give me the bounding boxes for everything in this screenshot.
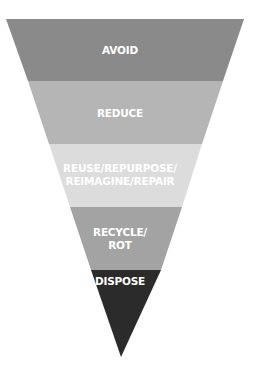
- label-reuse-line1: REUSE/REPURPOSE/: [0, 162, 240, 175]
- label-reduce: REDUCE: [0, 107, 240, 120]
- label-avoid: AVOID: [0, 44, 240, 57]
- label-reuse: REUSE/REPURPOSE/ REIMAGINE/REPAIR: [0, 162, 240, 188]
- label-recycle-line1: RECYCLE/: [0, 226, 240, 239]
- label-dispose: DISPOSE: [0, 275, 240, 288]
- label-recycle-line2: ROT: [0, 239, 240, 252]
- label-reuse-line2: REIMAGINE/REPAIR: [0, 175, 240, 188]
- label-recycle: RECYCLE/ ROT: [0, 226, 240, 252]
